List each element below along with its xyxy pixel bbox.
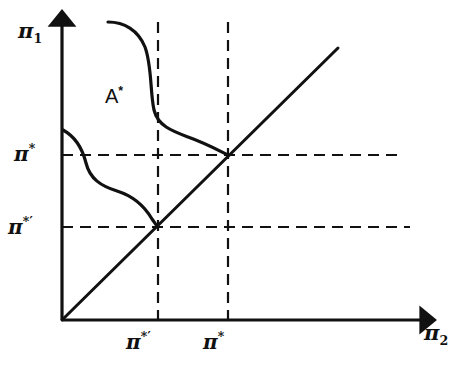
y-tick-pi-star-superscript: * [29,141,36,156]
y-tick-label-pi-star-prime: π*′ [8,216,33,237]
diagram-svg [0,0,476,371]
x-axis-label-base: π [424,320,439,345]
y-axis-label-base: π [18,18,33,43]
x-tick-pi-star-prime-superscript: *′ [141,329,152,344]
x-tick-pi-star-base: π [203,330,218,354]
x-tick-label-pi-star: π* [203,331,225,352]
y-tick-pi-star-prime-superscript: *′ [23,214,34,229]
y-axis-label: π1 [18,20,42,46]
x-tick-label-pi-star-prime: π*′ [126,331,151,352]
y-axis-label-subscript: 1 [33,31,42,46]
figure-canvas: π1 π2 π* π*′ π*′ π* A* [0,0,476,371]
curve-label-a-star: A* [105,85,124,106]
guide-lines [62,22,410,320]
y-tick-label-pi-star: π* [14,143,36,164]
curve-label-a-star-base: A [105,85,118,107]
best-response-curve-upper [108,22,228,155]
best-response-curve-lower [63,130,158,227]
y-tick-pi-star-base: π [14,142,29,166]
x-axis-label: π2 [424,322,448,348]
curve-label-a-star-superscript: * [118,84,123,98]
x-tick-pi-star-prime-base: π [126,330,141,354]
x-tick-pi-star-superscript: * [218,329,225,344]
y-tick-pi-star-prime-base: π [8,215,23,239]
x-axis-label-subscript: 2 [439,333,448,348]
